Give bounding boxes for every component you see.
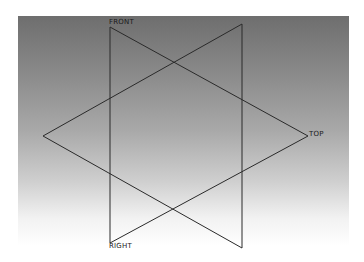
top-plane-lower-left-edge[interactable]: [43, 136, 242, 248]
top-plane-upper-left-edge[interactable]: [43, 24, 242, 136]
datum-label-right[interactable]: RIGHT: [109, 243, 132, 250]
right-plane-diagonal[interactable]: [110, 136, 308, 243]
datum-label-top[interactable]: TOP: [309, 131, 324, 138]
datum-label-front[interactable]: FRONT: [109, 19, 134, 26]
